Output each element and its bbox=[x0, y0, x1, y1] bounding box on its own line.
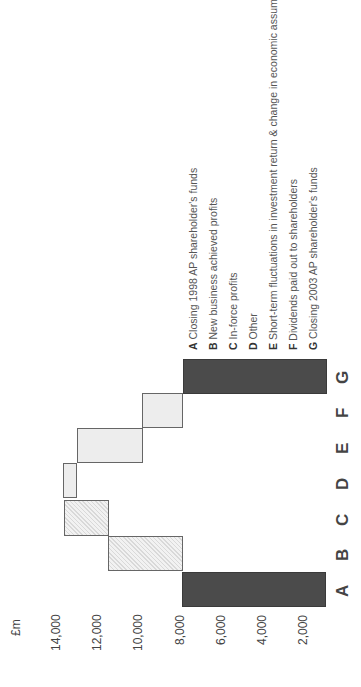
category-label-c: C bbox=[333, 514, 353, 526]
legend-key: D bbox=[247, 342, 259, 350]
bar-f bbox=[142, 393, 183, 428]
bar-g bbox=[183, 359, 327, 394]
legend-text: In-force profits bbox=[227, 272, 239, 339]
y-tick-2000: 2,000 bbox=[296, 615, 310, 645]
category-label-f: F bbox=[333, 408, 353, 418]
legend-text: Closing 1998 AP shareholder's funds bbox=[187, 168, 199, 340]
y-tick-14000: 14,000 bbox=[49, 614, 63, 651]
legend-key: F bbox=[287, 344, 299, 350]
y-tick-10000: 10,000 bbox=[131, 614, 145, 651]
category-label-b: B bbox=[333, 549, 353, 561]
legend-item-a: A Closing 1998 AP shareholder's funds bbox=[187, 168, 199, 350]
bar-e bbox=[77, 428, 143, 463]
legend-text: Closing 2003 AP shareholder's funds bbox=[307, 167, 319, 339]
legend-text: Other bbox=[247, 313, 259, 339]
bar-d bbox=[63, 463, 77, 498]
y-tick-4000: 4,000 bbox=[255, 615, 269, 645]
legend-text: New business achieved profits bbox=[207, 198, 219, 340]
category-label-e: E bbox=[333, 443, 353, 454]
legend-key: E bbox=[267, 343, 279, 350]
legend-key: C bbox=[227, 342, 239, 350]
legend-item-b: B New business achieved profits bbox=[207, 198, 219, 350]
legend-item-e: E Short-term fluctuations in investment … bbox=[267, 0, 279, 350]
y-tick-6000: 6,000 bbox=[214, 615, 228, 645]
y-tick-8000: 8,000 bbox=[173, 615, 187, 645]
legend-text: Short-term fluctuations in investment re… bbox=[267, 0, 279, 340]
y-tick-12000: 12,000 bbox=[90, 614, 104, 651]
legend-key: B bbox=[207, 342, 219, 350]
bar-a bbox=[182, 572, 326, 607]
category-label-d: D bbox=[333, 478, 353, 490]
legend-text: Dividends paid out to shareholders bbox=[287, 179, 299, 341]
legend-item-g: G Closing 2003 AP shareholder's funds bbox=[307, 167, 319, 350]
legend-key: A bbox=[187, 342, 199, 350]
y-axis-unit-label: £m bbox=[9, 619, 23, 636]
category-label-g: G bbox=[333, 371, 353, 384]
category-label-a: A bbox=[333, 585, 353, 597]
bar-c bbox=[64, 500, 109, 536]
bar-b bbox=[108, 536, 183, 571]
legend-item-c: C In-force profits bbox=[227, 272, 239, 350]
legend-key: G bbox=[307, 342, 319, 350]
legend-item-d: D Other bbox=[247, 313, 259, 350]
legend-item-f: F Dividends paid out to shareholders bbox=[287, 179, 299, 350]
